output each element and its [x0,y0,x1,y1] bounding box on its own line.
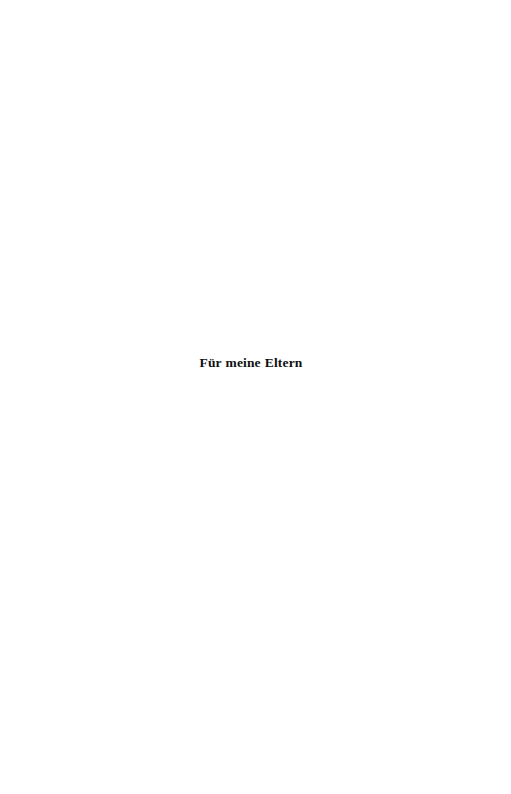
dedication-page: Für meine Eltern [0,0,511,794]
dedication-line: Für meine Eltern [0,354,511,371]
dedication-text: Für meine Eltern [200,355,303,371]
